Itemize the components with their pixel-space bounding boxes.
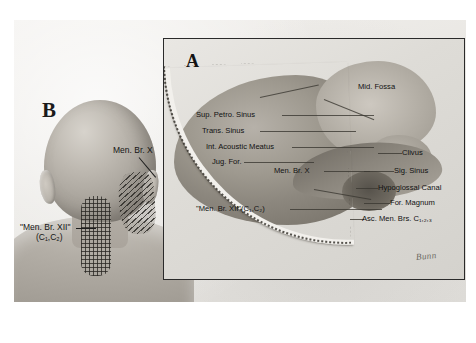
leader-line-men-br-xii (76, 228, 96, 229)
label-sig-sinus: Sig. Sinus (394, 167, 428, 176)
panel-b-letter: B (42, 98, 57, 123)
label-panel-a-men-br-xii: "Men. Br. XII"(C₁,C₂) (196, 205, 265, 214)
label-men-br-xii-main: "Men. Br. XII" (20, 222, 70, 232)
label-hypoglossal-canal: Hypoglossal Canal (378, 184, 441, 193)
label-jug-for: Jug. For. (212, 158, 242, 167)
panel-a-skull-base-inset: A Mid. Fossa Sup. Petro. Sinus Trans. Si… (163, 38, 465, 280)
label-men-br-x: Men. Br. X (113, 146, 153, 156)
leader-line-jug-for (244, 162, 314, 163)
label-clivus: Clivus (402, 149, 423, 158)
leader-line-clivus (378, 153, 402, 154)
leader-line-trans-sinus (260, 131, 356, 132)
leader-line-hypoglossal (356, 188, 378, 189)
label-men-br-xii-roots: (C₁,C₂) (36, 233, 70, 243)
label-for-magnum: For. Magnum (390, 199, 435, 208)
skull-rim-suture-dots (163, 60, 351, 250)
leader-line-for-magnum (364, 203, 390, 204)
leader-line-int-acoustic (292, 147, 374, 148)
label-int-acoustic-meatus: Int. Acoustic Meatus (206, 143, 274, 152)
label-sup-petro-sinus: Sup. Petro. Sinus (196, 111, 255, 120)
leader-line-men-br-xii (290, 209, 382, 210)
cross-hatched-occipital-patch (81, 196, 111, 276)
label-men-br-xii: "Men. Br. XII" (C₁,C₂) (20, 223, 70, 242)
label-trans-sinus: Trans. Sinus (202, 127, 244, 136)
panel-b-posterior-head: B Men. Br. X "Men. Br. XII" (C₁,C₂) (14, 20, 179, 302)
label-asc-men-brs: Asc. Men. Brs. C₁,₂,₃ (362, 215, 432, 224)
leader-line-sup-petro-sinus (282, 115, 374, 116)
leader-line-sig-sinus (364, 171, 394, 172)
label-panel-a-men-br-x: Men. Br. X (274, 167, 309, 176)
panel-a-letter: A (186, 51, 199, 72)
artist-signature: Bunn (416, 250, 438, 262)
label-mid-fossa: Mid. Fossa (358, 83, 395, 92)
figure-plate: B Men. Br. X "Men. Br. XII" (C₁,C₂) (14, 20, 466, 302)
